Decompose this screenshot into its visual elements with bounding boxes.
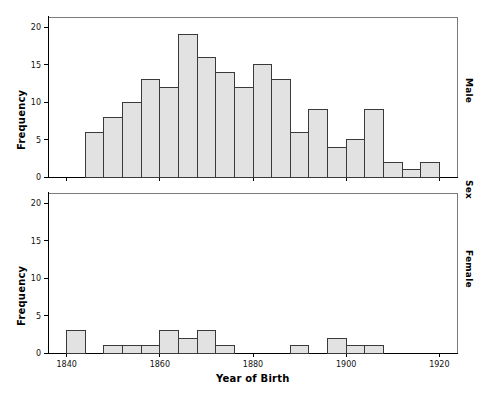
x-tick-label: 1880 xyxy=(243,360,263,369)
panel-male-plot: 05101520 xyxy=(0,0,502,200)
panel-label-female: Female xyxy=(464,250,474,288)
histogram-bar xyxy=(309,110,328,178)
x-tick-label: 1860 xyxy=(150,360,170,369)
histogram-bar xyxy=(178,35,197,178)
y-tick-label: 20 xyxy=(31,23,41,32)
histogram-bar xyxy=(160,331,179,354)
histogram-bar xyxy=(160,87,179,177)
y-tick-label: 10 xyxy=(31,274,41,283)
y-tick-label: 15 xyxy=(31,61,41,70)
histogram-bar xyxy=(290,346,309,354)
histogram-bar xyxy=(346,346,365,354)
y-tick-label: 20 xyxy=(31,199,41,208)
histogram-bar xyxy=(328,338,347,353)
histogram-bar xyxy=(365,110,384,178)
x-axis-title: Year of Birth xyxy=(216,373,289,384)
histogram-figure: 05101520 Frequency Male Sex 051015201840… xyxy=(0,0,502,397)
x-tick-label: 1900 xyxy=(336,360,356,369)
y-tick-label: 5 xyxy=(36,136,41,145)
histogram-bar xyxy=(234,87,253,177)
y-tick-label: 5 xyxy=(36,312,41,321)
histogram-bar xyxy=(216,72,235,177)
x-tick-label: 1840 xyxy=(56,360,76,369)
histogram-bar xyxy=(290,132,309,177)
histogram-bar xyxy=(346,140,365,178)
y-axis-title-female: Frequency xyxy=(16,266,27,326)
y-axis-title-male: Frequency xyxy=(16,90,27,150)
histogram-bar xyxy=(104,346,123,354)
histogram-bar xyxy=(197,57,216,177)
x-tick-label: 1920 xyxy=(429,360,449,369)
histogram-bar xyxy=(365,346,384,354)
histogram-bar xyxy=(123,102,142,177)
histogram-bar xyxy=(85,132,104,177)
y-tick-label: 10 xyxy=(31,98,41,107)
panel-female-plot: 0510152018401860188019001920 xyxy=(0,176,502,397)
histogram-bar xyxy=(383,162,402,177)
panel-label-male: Male xyxy=(464,78,474,103)
histogram-bar xyxy=(141,80,160,178)
y-tick-label: 15 xyxy=(31,237,41,246)
histogram-bar xyxy=(178,338,197,353)
histogram-bar xyxy=(253,65,272,178)
histogram-bar xyxy=(216,346,235,354)
histogram-bar xyxy=(421,162,440,177)
histogram-bar xyxy=(141,346,160,354)
histogram-bar xyxy=(197,331,216,354)
histogram-bar xyxy=(67,331,86,354)
y-tick-label: 0 xyxy=(36,349,41,358)
histogram-bar xyxy=(272,80,291,178)
histogram-bar xyxy=(104,117,123,177)
histogram-bar xyxy=(328,147,347,177)
histogram-bar xyxy=(123,346,142,354)
